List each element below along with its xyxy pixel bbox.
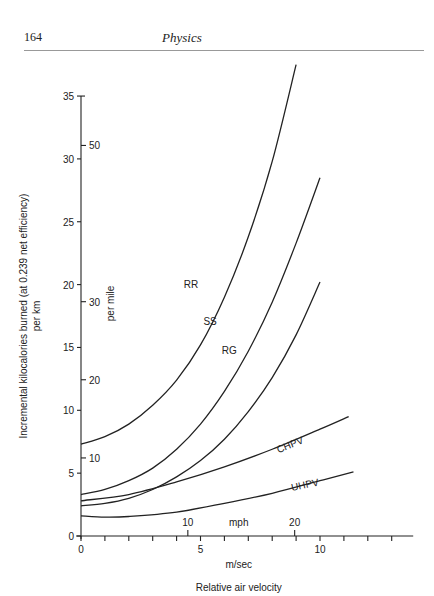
curve-rg	[81, 282, 320, 506]
curve-rr	[81, 65, 296, 445]
x-axis-title: Relative air velocity	[196, 582, 282, 593]
curve-label-ss: SS	[203, 316, 217, 327]
y-tick-label: 5	[68, 468, 74, 479]
y-tick-label: 20	[63, 280, 75, 291]
curve-label-rr: RR	[184, 279, 198, 290]
y-tick-label: 0	[68, 531, 74, 542]
mph-tick-label: 20	[289, 517, 301, 528]
mph-tick-label: 10	[182, 517, 194, 528]
y-tick-label: 30	[63, 154, 75, 165]
y-axis-title: Incremental kilocalories burned (at 0.23…	[18, 194, 29, 439]
per-mile-tick-label: 10	[89, 453, 101, 464]
per-mile-tick-label: 20	[89, 375, 101, 386]
per-mile-label: per mile	[105, 285, 116, 321]
mph-unit-label: mph	[229, 517, 248, 528]
y-tick-label: 35	[63, 91, 75, 102]
chart: 0510152025303510203050per mileIncrementa…	[0, 0, 434, 596]
curve-label-chpv: CHPV	[275, 434, 305, 455]
x-tick-label: 10	[314, 544, 326, 555]
per-mile-tick-label: 30	[89, 297, 101, 308]
x-unit-label: m/sec	[225, 559, 252, 570]
curve-label-uhpv: UHPV	[290, 476, 320, 493]
x-tick-label: 0	[78, 544, 84, 555]
curve-label-rg: RG	[222, 345, 237, 356]
y-axis-unit: per km	[31, 301, 42, 332]
per-mile-tick-label: 50	[89, 140, 101, 151]
y-tick-label: 25	[63, 217, 75, 228]
y-tick-label: 15	[63, 342, 75, 353]
x-tick-label: 5	[198, 544, 204, 555]
y-tick-label: 10	[63, 405, 75, 416]
